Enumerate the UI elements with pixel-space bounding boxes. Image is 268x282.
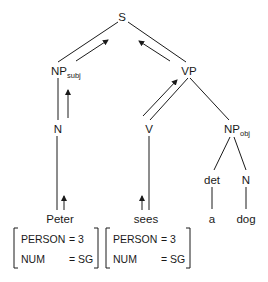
feature-value: SG (78, 249, 93, 269)
node-det: det (204, 174, 221, 186)
leaf-a: a (209, 213, 216, 225)
feature-value: SG (170, 249, 185, 269)
node-np-obj-label: NP (224, 123, 240, 135)
node-vp: VP (181, 65, 197, 77)
feature-row: PERSON = 3 (21, 229, 93, 249)
feature-structure-sees: PERSON = 3 NUM = SG (113, 229, 185, 269)
feature-attr: PERSON (113, 229, 157, 249)
leaf-dog: dog (236, 213, 255, 225)
feature-attr: NUM (113, 249, 137, 269)
node-s: S (118, 11, 126, 23)
node-np-obj-subscript: obj (240, 129, 250, 138)
arrow-up-right-icon (143, 80, 177, 116)
bracket-left-icon (106, 228, 110, 268)
node-v: V (145, 123, 153, 135)
edge-vp-npobj (190, 78, 229, 120)
feature-attr: PERSON (21, 229, 65, 249)
feature-value: 3 (170, 229, 176, 249)
leaf-peter: Peter (46, 213, 74, 225)
arrow-up-right-icon (76, 40, 108, 61)
edge-s-vp (128, 22, 186, 62)
node-n-obj: N (242, 174, 250, 186)
edge-npobj-det (214, 137, 230, 170)
tree-leaves: Peter sees a dog (46, 213, 255, 225)
feature-value: 3 (78, 229, 84, 249)
feature-row: PERSON = 3 (113, 229, 185, 249)
feature-eq: = (69, 229, 75, 249)
feature-structure-peter: PERSON = 3 NUM = SG (21, 229, 93, 269)
feature-eq: = (161, 249, 167, 269)
edge-vp-v (150, 78, 188, 120)
bracket-right-icon (186, 228, 190, 268)
feature-eq: = (161, 229, 167, 249)
feature-row: NUM = SG (21, 249, 93, 269)
node-np-subj-subscript: subj (67, 71, 81, 80)
feature-row: NUM = SG (113, 249, 185, 269)
edge-npobj-n (234, 137, 246, 170)
bracket-left-icon (14, 228, 18, 268)
node-np-obj: NPobj (224, 123, 250, 138)
feature-attr: NUM (21, 249, 45, 269)
feature-arrows (64, 40, 177, 210)
edge-s-npsubj (58, 22, 118, 62)
node-np-subj: NPsubj (51, 65, 81, 80)
leaf-sees: sees (134, 213, 159, 225)
node-n-subj: N (54, 123, 62, 135)
feature-eq: = (69, 249, 75, 269)
node-np-subj-label: NP (51, 65, 67, 77)
bracket-right-icon (94, 228, 98, 268)
arrow-up-left-icon (139, 41, 170, 61)
